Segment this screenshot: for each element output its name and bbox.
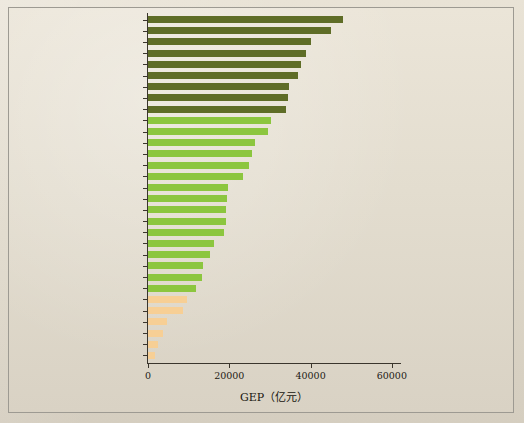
bar-甘肃: [148, 285, 196, 292]
y-axis-tick: [143, 154, 147, 155]
bar-山东: [148, 195, 227, 202]
bar-湖南: [148, 50, 306, 57]
bar-row: [148, 330, 163, 337]
bar-四川: [148, 16, 343, 23]
y-axis-tick: [143, 299, 147, 300]
y-axis-tick: [143, 243, 147, 244]
x-axis-tick-label: 0: [145, 370, 151, 381]
bar-安徽: [148, 139, 255, 146]
y-axis-tick: [143, 199, 147, 200]
bar-row: [148, 352, 155, 359]
plot-area: [148, 14, 400, 361]
bar-贵州: [148, 150, 252, 157]
y-axis-tick: [143, 266, 147, 267]
bar-新疆: [148, 128, 268, 135]
y-axis-line: [147, 13, 148, 363]
bar-row: [148, 50, 306, 57]
y-axis-tick: [143, 132, 147, 133]
x-axis-tick-label: 40000: [295, 370, 325, 381]
bar-row: [148, 128, 268, 135]
bar-湖北: [148, 94, 288, 101]
x-axis-tick: [148, 364, 149, 368]
bar-西藏: [148, 106, 286, 113]
bar-北京: [148, 330, 163, 337]
bar-江苏: [148, 162, 249, 169]
y-axis-tick: [143, 31, 147, 32]
bar-row: [148, 318, 167, 325]
bar-row: [148, 184, 228, 191]
y-axis-tick: [143, 288, 147, 289]
bar-row: [148, 251, 210, 258]
bar-陕西: [148, 229, 224, 236]
bar-黑龙江: [148, 173, 243, 180]
bar-row: [148, 83, 289, 90]
y-axis-tick: [143, 76, 147, 77]
x-axis-line: [147, 363, 401, 364]
y-axis-tick: [143, 165, 147, 166]
y-axis-tick: [143, 176, 147, 177]
bar-row: [148, 285, 196, 292]
bar-row: [148, 206, 226, 213]
bar-重庆: [148, 262, 203, 269]
y-axis-tick: [143, 143, 147, 144]
bar-row: [148, 307, 183, 314]
x-axis-tick: [229, 364, 230, 368]
bar-row: [148, 61, 301, 68]
bar-row: [148, 117, 271, 124]
bar-row: [148, 106, 286, 113]
bar-row: [148, 229, 224, 236]
y-axis-tick: [143, 355, 147, 356]
bar-row: [148, 296, 187, 303]
bar-辽宁: [148, 251, 210, 258]
y-axis-tick: [143, 120, 147, 121]
bar-福建: [148, 117, 271, 124]
y-axis-tick: [143, 221, 147, 222]
y-axis-tick: [143, 210, 147, 211]
bar-青海: [148, 206, 226, 213]
bar-row: [148, 173, 243, 180]
bar-row: [148, 240, 214, 247]
bar-row: [148, 274, 202, 281]
bar-row: [148, 94, 288, 101]
y-axis-tick: [143, 188, 147, 189]
bar-row: [148, 139, 255, 146]
bar-row: [148, 195, 227, 202]
bar-row: [148, 150, 252, 157]
x-axis-tick-label: 60000: [377, 370, 407, 381]
bar-浙江: [148, 184, 228, 191]
bar-江西: [148, 72, 298, 79]
bar-row: [148, 262, 203, 269]
bar-广西: [148, 38, 311, 45]
bar-row: [148, 27, 331, 34]
y-axis-tick: [143, 53, 147, 54]
bar-row: [148, 38, 311, 45]
x-axis-tick: [311, 364, 312, 368]
y-axis-tick: [143, 344, 147, 345]
y-axis-tick: [143, 333, 147, 334]
bar-上海: [148, 352, 155, 359]
y-axis-tick: [143, 98, 147, 99]
bar-row: [148, 341, 158, 348]
y-axis-tick: [143, 255, 147, 256]
y-axis-tick: [143, 64, 147, 65]
bar-海南: [148, 296, 187, 303]
bar-row: [148, 218, 226, 225]
bar-内蒙古: [148, 61, 301, 68]
y-axis-tick: [143, 277, 147, 278]
y-axis-tick: [143, 20, 147, 21]
bar-河南: [148, 218, 226, 225]
bar-吉林: [148, 274, 202, 281]
y-axis-tick: [143, 87, 147, 88]
bar-row: [148, 16, 343, 23]
bar-row: [148, 162, 249, 169]
bar-云南: [148, 27, 331, 34]
bar-天津: [148, 341, 158, 348]
x-axis-title: GEP（亿元）: [240, 388, 308, 404]
y-axis-tick: [143, 109, 147, 110]
bar-row: [148, 72, 298, 79]
bar-广东: [148, 83, 289, 90]
y-axis-tick: [143, 322, 147, 323]
x-axis-tick: [392, 364, 393, 368]
y-axis-tick: [143, 42, 147, 43]
bar-宁夏: [148, 318, 167, 325]
